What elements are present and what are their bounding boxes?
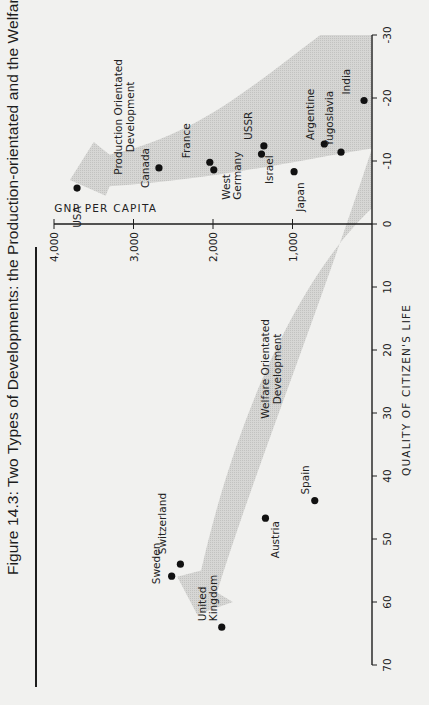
y-tick-label: 3,000 bbox=[128, 232, 140, 262]
x-tick-label: 70 bbox=[381, 658, 393, 671]
data-point bbox=[337, 149, 344, 156]
point-label: Canada bbox=[139, 148, 151, 188]
y-axis-title: GNP PER CAPITA bbox=[54, 202, 157, 214]
point-label: Yugoslavia bbox=[323, 91, 335, 147]
x-tick-label: 40 bbox=[381, 469, 393, 482]
point-label: Japan bbox=[294, 182, 306, 212]
x-tick-label: 10 bbox=[381, 280, 393, 293]
data-point bbox=[155, 164, 162, 171]
point-label: Spain bbox=[299, 465, 311, 494]
point-label: India bbox=[340, 69, 352, 95]
data-point bbox=[360, 97, 367, 104]
data-point bbox=[73, 184, 80, 191]
y-tick-label: 4,000 bbox=[48, 232, 60, 262]
point-label: Austria bbox=[269, 521, 281, 558]
x-tick-label: -20 bbox=[381, 89, 393, 106]
y-tick-label: 2,000 bbox=[207, 232, 219, 262]
point-label: USSR bbox=[242, 112, 254, 140]
point-label: USA bbox=[71, 205, 83, 228]
x-tick-label: 60 bbox=[381, 595, 393, 608]
point-label: Argentine bbox=[304, 89, 316, 140]
x-tick-label: -10 bbox=[381, 152, 393, 169]
point-label: Sweden bbox=[150, 543, 162, 585]
x-tick-label: 20 bbox=[381, 343, 393, 356]
x-tick-label: 30 bbox=[381, 406, 393, 419]
y-tick-label: 1,000 bbox=[287, 232, 299, 262]
x-tick-label: 0 bbox=[381, 221, 393, 228]
data-point bbox=[210, 166, 217, 173]
data-point bbox=[218, 624, 225, 631]
annotation: Welfare OrientatedDevelopment bbox=[259, 319, 283, 419]
data-point bbox=[262, 515, 269, 522]
data-point bbox=[206, 159, 213, 166]
x-tick-label: -30 bbox=[381, 26, 393, 43]
data-point bbox=[260, 142, 267, 149]
data-point bbox=[177, 561, 184, 568]
point-label: France bbox=[180, 123, 192, 158]
data-point bbox=[168, 573, 175, 580]
x-axis-title: QUALITY OF CITIZEN'S LIFE bbox=[400, 304, 412, 476]
data-point bbox=[311, 497, 318, 504]
scatter-chart: 706050403020100-10-20-301,0002,0003,0004… bbox=[0, 0, 429, 705]
point-label: Israel bbox=[263, 155, 275, 184]
rotated-figure: Figure 14.3: Two Types of Developments: … bbox=[0, 0, 429, 705]
data-point bbox=[290, 168, 297, 175]
x-tick-label: 50 bbox=[381, 532, 393, 545]
